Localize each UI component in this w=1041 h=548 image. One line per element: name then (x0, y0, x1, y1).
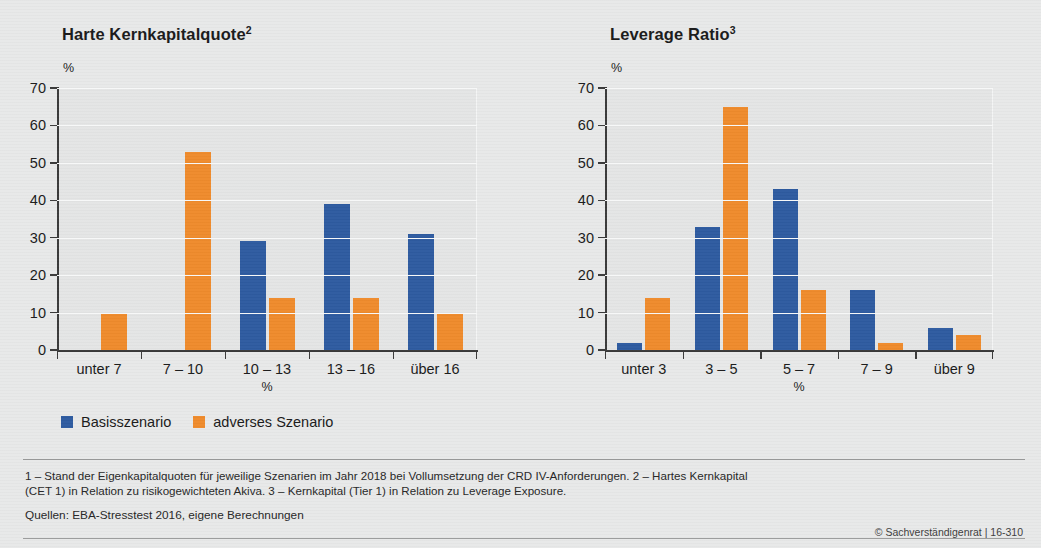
x-axis-tick (683, 350, 684, 359)
y-axis-tick-label: 40 (30, 192, 46, 208)
legend-label: Basisszenario (81, 414, 171, 430)
bar-basisszenario (773, 189, 798, 350)
legend-swatch-icon (61, 416, 73, 428)
y-axis-unit-left: % (63, 61, 74, 75)
x-axis-category-label: 13 – 16 (327, 361, 375, 377)
x-axis-line-right (605, 350, 994, 352)
gridline (57, 275, 477, 276)
gridline (605, 200, 993, 201)
y-axis-unit-right: % (611, 61, 622, 75)
gridline (605, 125, 993, 126)
bars-right (605, 88, 993, 350)
chart-title-right-superscript: 3 (730, 24, 736, 36)
y-axis-tick (50, 312, 57, 313)
x-axis-category-label: unter 3 (621, 361, 666, 377)
y-axis-tick-label: 0 (38, 342, 46, 358)
bar-basisszenario (928, 328, 953, 350)
plot-area-right: 010203040506070unter 33 – 55 – 77 – 9übe… (605, 88, 993, 350)
x-axis-line-left (57, 350, 478, 352)
y-axis-tick-label: 30 (578, 230, 594, 246)
gridline (605, 238, 993, 239)
y-axis-tick-label: 50 (578, 155, 594, 171)
y-axis-tick (50, 87, 57, 88)
gridline (57, 238, 477, 239)
bar-adverses-szenario (437, 313, 463, 350)
y-axis-tick-label: 10 (30, 305, 46, 321)
y-axis-tick (598, 349, 605, 350)
gridline (57, 125, 477, 126)
y-axis-tick-label: 20 (30, 267, 46, 283)
gridline (605, 88, 993, 89)
x-axis-tick (605, 350, 606, 359)
bar-adverses-szenario (185, 152, 211, 350)
chart-panel-harte-kernkapitalquote: Harte Kernkapitalquote2 % 01020304050607… (0, 0, 560, 400)
legend-item-adverse: adverses Szenario (193, 414, 333, 430)
bar-adverses-szenario (645, 298, 670, 350)
gridline (57, 313, 477, 314)
gridline (57, 200, 477, 201)
y-axis-tick (50, 237, 57, 238)
footnote-line-1: 1 – Stand der Eigenkapitalquoten für jew… (25, 468, 1023, 483)
chart-title-left-superscript: 2 (246, 24, 252, 36)
x-axis-category-label: über 9 (934, 361, 975, 377)
charts-row: Harte Kernkapitalquote2 % 01020304050607… (0, 0, 1041, 400)
bar-basisszenario (850, 290, 875, 350)
chart-title-left-text: Harte Kernkapitalquote (62, 25, 246, 43)
x-axis-unit-label: % (261, 380, 272, 394)
bar-adverses-szenario (101, 313, 127, 350)
bar-adverses-szenario (956, 335, 981, 350)
legend-item-base: Basisszenario (61, 414, 171, 430)
bars-left (57, 88, 477, 350)
x-axis-category-label: 10 – 13 (243, 361, 291, 377)
copyright-line: © Sachverständigenrat | 16-310 (875, 526, 1023, 538)
legend-label: adverses Szenario (213, 414, 333, 430)
y-axis-tick-label: 40 (578, 192, 594, 208)
gridline (57, 88, 477, 89)
x-axis-tick (393, 350, 394, 359)
y-axis-tick-label: 70 (578, 80, 594, 96)
y-axis-tick (598, 237, 605, 238)
x-axis-category-label: 7 – 9 (860, 361, 892, 377)
chart-title-left: Harte Kernkapitalquote2 (62, 25, 252, 44)
y-axis-tick (50, 162, 57, 163)
figure-page: Harte Kernkapitalquote2 % 01020304050607… (0, 0, 1041, 548)
bar-basisszenario (324, 204, 350, 350)
bar-adverses-szenario (353, 298, 379, 350)
x-axis-category-label: unter 7 (76, 361, 121, 377)
y-axis-tick (598, 274, 605, 275)
x-axis-tick (309, 350, 310, 359)
chart-title-right: Leverage Ratio3 (610, 25, 736, 44)
plot-area-left: 010203040506070unter 77 – 1010 – 1313 – … (57, 88, 477, 350)
gridline (605, 313, 993, 314)
chart-title-right-text: Leverage Ratio (610, 25, 730, 43)
y-axis-tick-label: 20 (578, 267, 594, 283)
y-axis-tick (50, 125, 57, 126)
bar-adverses-szenario (878, 343, 903, 350)
chart-panel-leverage-ratio: Leverage Ratio3 % 010203040506070unter 3… (548, 0, 1041, 400)
y-axis-tick-label: 50 (30, 155, 46, 171)
y-axis-tick-label: 60 (578, 117, 594, 133)
x-axis-tick (760, 350, 761, 359)
y-axis-tick-label: 70 (30, 80, 46, 96)
x-axis-unit-label: % (793, 380, 804, 394)
sources-line: Quellen: EBA-Stresstest 2016, eigene Ber… (25, 508, 304, 522)
y-axis-tick (50, 200, 57, 201)
x-axis-category-label: über 16 (410, 361, 459, 377)
x-axis-tick (141, 350, 142, 359)
bar-basisszenario (617, 343, 642, 350)
y-axis-tick (50, 349, 57, 350)
gridline (605, 275, 993, 276)
y-axis-tick (598, 200, 605, 201)
x-axis-category-label: 7 – 10 (163, 361, 203, 377)
legend: Basisszenarioadverses Szenario (61, 414, 333, 430)
y-axis-tick-label: 60 (30, 117, 46, 133)
y-axis-tick (598, 125, 605, 126)
y-axis-tick (598, 87, 605, 88)
gridline (605, 163, 993, 164)
bar-basisszenario (240, 241, 266, 350)
footnotes: 1 – Stand der Eigenkapitalquoten für jew… (25, 468, 1023, 498)
x-axis-tick (57, 350, 58, 359)
bar-basisszenario (408, 234, 434, 350)
bar-adverses-szenario (269, 298, 295, 350)
footer-divider-top (23, 459, 1025, 460)
